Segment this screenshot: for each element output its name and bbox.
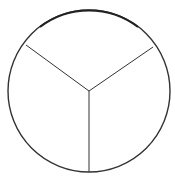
three-sector-circle-diagram [0,0,175,182]
outer-circle-thick-arc [40,10,138,27]
radius-upper-left [26,45,89,91]
radius-upper-right [89,47,153,91]
